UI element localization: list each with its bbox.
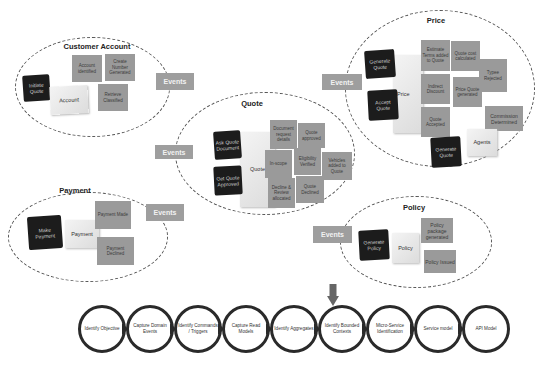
accept-quote-command: Accept Quote [367, 89, 399, 121]
event-quote-declined: Quote Declined [296, 176, 324, 203]
policy-aggregate: Policy [392, 233, 419, 263]
event-vehicles-added: Vehicles added to Quote [322, 152, 352, 180]
step-api-model: API Model [462, 305, 510, 353]
step-identify-objective: Identify Objective [78, 305, 126, 353]
event-document-request-details: Document request details [270, 120, 297, 149]
event-account-identified: Account identified [72, 55, 102, 82]
events-button-policy[interactable]: Events [313, 226, 352, 243]
event-in-scope: In-scope [265, 150, 292, 178]
price-aggregate: Price [393, 55, 423, 133]
event-retrieve-classified: Retrieve Classified [98, 84, 128, 111]
event-policy-package-generated: Policy package generated [421, 218, 453, 243]
step-capture-domain-events: Capture Domain Events [126, 305, 174, 353]
event-eligibility-verified: Eligibility Verified [294, 148, 321, 175]
account-aggregate: Account [49, 85, 88, 115]
event-payment-made: Payment Made [95, 201, 131, 229]
agents-aggregate: Agents [467, 129, 497, 156]
events-button-customer-account[interactable]: Events [156, 73, 194, 90]
event-create-number-generated: Create Number Generated [105, 54, 135, 81]
events-button-price[interactable]: Events [322, 74, 362, 90]
event-policy-issued: Policy Issued [424, 250, 456, 273]
step-identify-bounded-contexts: Identify Bounded Contexts [318, 305, 366, 353]
process-chain: Identify Objective Capture Domain Events… [78, 305, 498, 355]
event-decline-review: Decline & Review allocated [268, 178, 295, 208]
price-title: Price [427, 16, 445, 25]
event-indirect-discount: Indirect Discount [421, 74, 450, 104]
payment-aggregate: Payment [65, 220, 99, 248]
event-quote-accepted: Quote Accepted [421, 107, 450, 137]
initiate-quote-command: Initiate Quote [22, 74, 51, 102]
step-identify-commands: Identify Commands / Triggers [174, 305, 222, 353]
generate-quote-command-2: Generate Quote [430, 136, 462, 168]
step-micro-service-identification: Micro-Service Identification [366, 305, 414, 353]
event-payment-declined: Payment Declined [97, 237, 134, 265]
customer-account-title: Customer Account [64, 42, 131, 51]
event-estimate-terms: Estimate Terms added to Quote [421, 40, 450, 71]
event-price-quote-generated: Price Quote generated [453, 77, 482, 107]
ask-quote-document-command: Ask Quote Document [213, 130, 242, 160]
step-capture-read-models: Capture Read Models [222, 305, 270, 353]
get-quote-approved-command: Get Quote Approved [213, 165, 242, 195]
step-identify-aggregates: Identify Aggregates [270, 305, 318, 353]
make-payment-command: Make Payment [27, 215, 63, 250]
event-quote-approved: Quote approved [298, 123, 325, 148]
generate-policy-command: Generate Policy [358, 229, 390, 261]
step-service-model: Service model [414, 305, 462, 353]
events-button-quote[interactable]: Events [155, 145, 193, 159]
quote-title: Quote [241, 99, 263, 108]
payment-title: Payment [59, 186, 90, 195]
event-quote-cost-calculated: Quote cost calculated [451, 41, 480, 71]
generate-quote-command: Generate Quote [364, 49, 396, 79]
events-button-payment[interactable]: Events [146, 204, 184, 221]
policy-title: Policy [403, 203, 425, 212]
event-commission-determined: Commission Determined [485, 106, 523, 131]
event-typee-rejected: Typee Rejected [479, 59, 507, 92]
